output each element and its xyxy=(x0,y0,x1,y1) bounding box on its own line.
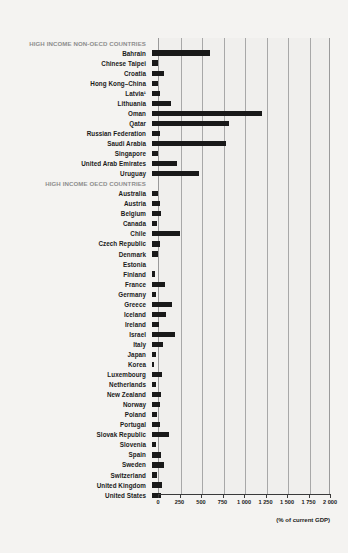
bar-row: Germany xyxy=(0,289,348,299)
category-label: Luxembourg xyxy=(0,371,152,378)
bar-row: Luxembourg xyxy=(0,370,348,380)
category-label: Slovak Republic xyxy=(0,431,152,438)
group-header-label: HIGH INCOME OECD COUNTRIES xyxy=(0,180,152,187)
category-label: Poland xyxy=(0,411,152,418)
axis-tick xyxy=(180,494,181,498)
category-label: Finland xyxy=(0,271,152,278)
bar-row: New Zealand xyxy=(0,390,348,400)
bar-track xyxy=(152,169,338,179)
category-label: Australia xyxy=(0,190,152,197)
bar-track xyxy=(152,219,338,229)
bar-track xyxy=(152,410,338,420)
bar xyxy=(152,392,161,397)
bar-track xyxy=(152,108,338,118)
bar xyxy=(152,282,165,287)
bar xyxy=(152,382,156,387)
bar-row: Bahrain xyxy=(0,48,348,58)
category-label: Canada xyxy=(0,220,152,227)
bar xyxy=(152,201,160,206)
category-label: Estonia xyxy=(0,261,152,268)
category-label: Hong Kong–China xyxy=(0,80,152,87)
axis-tick-label: 2 000 xyxy=(323,499,337,505)
bar-track xyxy=(152,279,338,289)
bar-row: Qatar xyxy=(0,118,348,128)
axis-tick xyxy=(309,494,310,498)
bar xyxy=(152,81,158,86)
bar-track xyxy=(152,48,338,58)
bar-track xyxy=(152,209,338,219)
bar xyxy=(152,322,159,327)
bar-row: Russian Federation xyxy=(0,128,348,138)
bar xyxy=(152,412,157,417)
group-header-label: HIGH INCOME NON-OECD COUNTRIES xyxy=(0,40,152,47)
bar xyxy=(152,151,158,156)
category-label: New Zealand xyxy=(0,391,152,398)
bar xyxy=(152,372,162,377)
category-label: Oman xyxy=(0,110,152,117)
bar xyxy=(152,231,180,236)
bar-row: Japan xyxy=(0,349,348,359)
axis-tick xyxy=(287,494,288,498)
bar xyxy=(152,251,158,256)
category-label: Israel xyxy=(0,331,152,338)
bar-track xyxy=(152,78,338,88)
category-label: Uruguay xyxy=(0,170,152,177)
bar-track xyxy=(152,319,338,329)
axis-tick-label: 500 xyxy=(196,499,205,505)
bar-track xyxy=(152,470,338,480)
bar-row: Chile xyxy=(0,229,348,239)
bar-track xyxy=(152,360,338,370)
bar-row: Spain xyxy=(0,450,348,460)
category-label: Korea xyxy=(0,361,152,368)
category-label: Japan xyxy=(0,351,152,358)
category-label: Croatia xyxy=(0,70,152,77)
bar-row: Hong Kong–China xyxy=(0,78,348,88)
bar-row: Latvia¹ xyxy=(0,88,348,98)
bar-row: Estonia xyxy=(0,259,348,269)
bar xyxy=(152,91,160,96)
bar xyxy=(152,131,160,136)
axis-tick xyxy=(330,494,331,498)
bar-rows: HIGH INCOME NON-OECD COUNTRIESBahrainChi… xyxy=(0,38,348,500)
bar xyxy=(152,292,156,297)
bar xyxy=(152,342,163,347)
category-label: Netherlands xyxy=(0,381,152,388)
bar xyxy=(152,101,171,106)
bar-row: Slovenia xyxy=(0,440,348,450)
bar-row: Belgium xyxy=(0,209,348,219)
bar-row: Sweden xyxy=(0,460,348,470)
bar xyxy=(152,442,156,447)
category-label: Chile xyxy=(0,230,152,237)
bar-row: Austria xyxy=(0,199,348,209)
bar xyxy=(152,452,161,457)
axis-tick-label: 250 xyxy=(175,499,184,505)
axis-tick xyxy=(266,494,267,498)
bar xyxy=(152,312,166,317)
bar-row: Lithuania xyxy=(0,98,348,108)
category-label: Belgium xyxy=(0,210,152,217)
bar-track xyxy=(152,299,338,309)
bar xyxy=(152,71,164,76)
bar-row: Finland xyxy=(0,269,348,279)
bar xyxy=(152,352,156,357)
bar-track xyxy=(152,309,338,319)
bar xyxy=(152,402,160,407)
category-label: Singapore xyxy=(0,150,152,157)
axis-tick-label: 1 500 xyxy=(280,499,294,505)
bar-row: Switzerland xyxy=(0,470,348,480)
bar-track xyxy=(152,430,338,440)
group-header-row: HIGH INCOME NON-OECD COUNTRIES xyxy=(0,38,348,48)
bar xyxy=(152,432,169,437)
bar xyxy=(152,60,158,65)
bar xyxy=(152,161,177,166)
bar-track xyxy=(152,289,338,299)
bar xyxy=(152,50,210,55)
bar-row: United Arab Emirates xyxy=(0,159,348,169)
bar-track xyxy=(152,159,338,169)
bar-row: Canada xyxy=(0,219,348,229)
bar-track xyxy=(152,339,338,349)
category-label: Iceland xyxy=(0,311,152,318)
bar-track xyxy=(152,118,338,128)
bar xyxy=(152,332,175,337)
category-label: United States xyxy=(0,492,152,499)
